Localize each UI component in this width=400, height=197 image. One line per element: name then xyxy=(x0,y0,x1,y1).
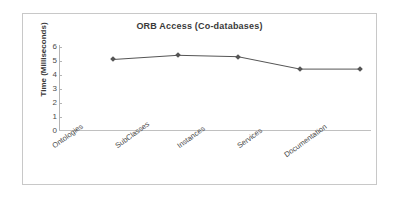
y-tick-label-5: 5 xyxy=(43,57,57,65)
y-tick-label-6: 6 xyxy=(43,43,57,51)
chart-title: ORB Access (Co-databases) xyxy=(23,21,376,31)
series-line xyxy=(59,47,367,130)
y-tick-label-3: 3 xyxy=(43,85,57,93)
chart-plot-frame: ORB Access (Co-databases) Time (Millisec… xyxy=(22,13,377,185)
y-tick-label-2: 2 xyxy=(43,99,57,107)
y-tick-label-0: 0 xyxy=(43,127,57,135)
y-tick-label-4: 4 xyxy=(43,71,57,79)
plot-area xyxy=(59,47,367,130)
chart-figure: ORB Access (Co-databases) Time (Millisec… xyxy=(0,0,400,197)
y-tick-label-1: 1 xyxy=(43,113,57,121)
